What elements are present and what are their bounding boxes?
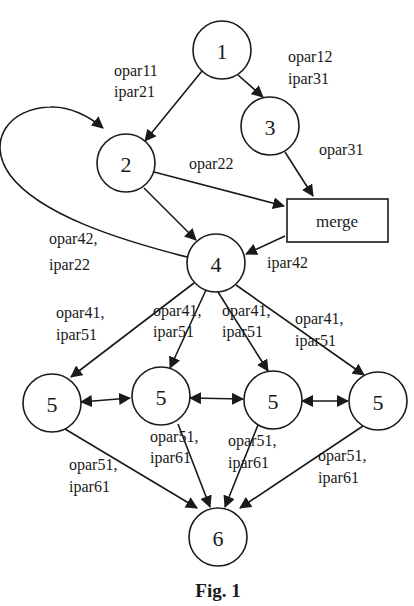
merge-node: merge [287,199,388,242]
label-opar31: opar31 [319,141,363,159]
label-opar41-d: opar41, [295,310,343,328]
edge-5a-5b-bidirectional [81,398,130,402]
label-ipar51-a: ipar51 [56,326,97,344]
node-2: 2 [97,134,155,192]
merge-label: merge [316,212,358,231]
edge-2-to-4 [144,188,196,240]
label-ipar51-b: ipar51 [153,323,194,341]
label-opar41-b: opar41, [153,302,201,320]
label-ipar42: ipar42 [267,254,308,272]
label-ipar61-d: ipar61 [318,469,359,487]
label-opar11: opar11 [114,62,158,80]
label-opar51-a: opar51, [69,456,117,474]
figure-caption: Fig. 1 [195,580,240,601]
node-label: 5 [373,390,384,415]
edge-1-to-3 [238,75,263,97]
node-label: 2 [121,152,132,177]
label-opar51-d: opar51, [318,447,366,465]
edge-3-to-merge [285,152,313,196]
label-ipar61-c: ipar61 [228,454,269,472]
node-label: 5 [156,385,167,410]
node-5a: 5 [23,374,81,432]
node-5d: 5 [349,372,407,430]
node-5b: 5 [132,367,190,425]
label-opar42: opar42, [49,230,97,248]
label-ipar51-d: ipar51 [295,332,336,350]
node-1: 1 [193,21,251,79]
node-label: 5 [268,389,279,414]
edge-1-to-2 [145,71,202,141]
label-opar12: opar12 [288,48,332,66]
label-ipar61-a: ipar61 [69,478,110,496]
node-6: 6 [189,508,247,566]
edge-2-to-merge [154,172,284,206]
label-ipar31: ipar31 [288,70,329,88]
label-ipar51-c: ipar51 [222,323,263,341]
label-ipar21: ipar21 [114,83,155,101]
node-label: 1 [217,39,228,64]
process-graph-diagram: 1 2 3 merge 4 5 5 5 5 6 opar11 ipar21 op… [0,0,414,606]
edge-5b-5c-bidirectional [190,398,243,399]
label-ipar61-b: ipar61 [150,449,191,467]
label-opar51-c: opar51, [228,432,276,450]
node-label: 4 [211,252,222,277]
label-opar51-b: opar51, [150,428,198,446]
edge-merge-to-4 [246,236,285,254]
label-opar41-c: opar41, [222,302,270,320]
node-label: 6 [213,526,224,551]
node-5c: 5 [244,371,302,429]
label-opar41-a: opar41, [56,304,104,322]
node-4: 4 [187,234,245,292]
label-opar22: opar22 [189,155,233,173]
node-label: 3 [265,115,276,140]
node-3: 3 [241,97,299,155]
label-ipar22: ipar22 [49,256,90,274]
node-label: 5 [47,392,58,417]
